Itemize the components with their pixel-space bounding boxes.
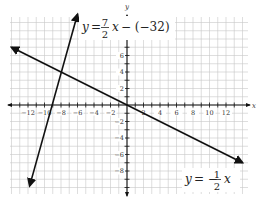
x-tick-label: 8 [191,109,195,117]
y-axis-label: y [124,3,130,11]
x-tick-label: 4 [158,109,162,117]
x-tick-label: −4 [89,109,99,117]
svg-text:2: 2 [102,29,108,40]
svg-text:− (−32): − (−32) [121,20,170,34]
x-tick-label: 10 [205,109,213,117]
y-tick-label: −2 [114,118,124,126]
svg-text:7: 7 [102,17,108,28]
svg-text:2: 2 [214,181,220,192]
y-tick-label: −4 [114,134,124,142]
y-tick-label: 4 [120,68,124,76]
svg-text:x: x [112,20,119,34]
x-tick-label: −2 [106,109,116,117]
label-line1: y=72x− (−32) [79,16,175,40]
svg-text:y: y [81,20,89,34]
x-tick-label: −6 [73,109,83,117]
y-tick-label: −6 [114,151,124,159]
svg-text:y: y [184,172,192,186]
x-tick-label: 12 [222,109,230,117]
x-tick-label: −8 [56,109,66,117]
y-tick-label: 2 [120,85,124,93]
label-line2: y= −12x [182,168,240,192]
x-tick-label: −12 [21,109,35,117]
svg-text:x: x [224,172,231,186]
line-steep [30,14,78,186]
svg-text:=: = [91,20,101,34]
y-tick-label: −8 [114,167,124,175]
svg-text:1: 1 [214,169,220,180]
coordinate-plane: xy −12−10−8−6−4−224681012−8−6−4−2246 y=7… [0,0,258,204]
equation-labels: y=72x− (−32)y= −12x [79,16,240,192]
x-tick-label: 6 [174,109,178,117]
y-tick-label: 6 [120,52,124,60]
x-axis-label: x [252,102,256,110]
